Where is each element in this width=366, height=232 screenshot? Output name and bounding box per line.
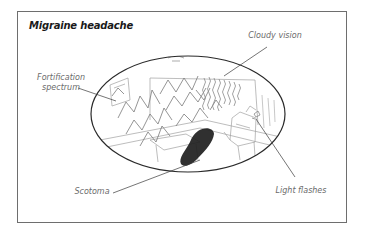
label-light-flashes: Light flashes [266, 186, 336, 196]
label-fortification-line2: spectrum [31, 83, 91, 93]
migraine-illustration [0, 0, 366, 232]
label-fortification-spectrum: Fortification spectrum [31, 73, 91, 93]
label-fortification-line1: Fortification [31, 73, 91, 83]
leader-scotoma [113, 160, 200, 193]
label-cloudy-vision: Cloudy vision [240, 31, 310, 41]
cloudy-vision-waves [203, 77, 241, 111]
label-scotoma: Scotoma [70, 187, 114, 197]
leader-light-flashes [256, 119, 295, 177]
